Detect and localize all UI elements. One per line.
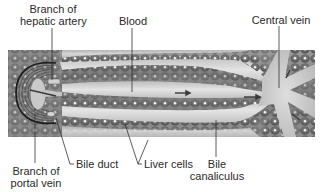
label-branch-of-hepatic-artery: Branch of hepatic artery [20,3,86,27]
label-portal-vein-line1: Branch of [8,165,64,177]
label-hepatic-artery-line1: Branch of [20,3,86,15]
label-bile-duct: Bile duct [76,158,126,170]
label-central-vein: Central vein [248,14,314,26]
label-branch-of-portal-vein: Branch of portal vein [8,165,64,189]
label-blood: Blood [114,15,152,27]
label-central-vein-text: Central vein [248,14,314,26]
label-bile-duct-text: Bile duct [76,158,126,170]
label-bile-canaliculus: Bile canaliculus [188,158,246,182]
label-hepatic-artery-line2: hepatic artery [20,15,86,27]
label-blood-text: Blood [114,15,152,27]
label-bile-canaliculus-line1: Bile [188,158,246,170]
label-portal-vein-line2: portal vein [8,177,64,189]
label-bile-canaliculus-line2: canaliculus [188,170,246,182]
